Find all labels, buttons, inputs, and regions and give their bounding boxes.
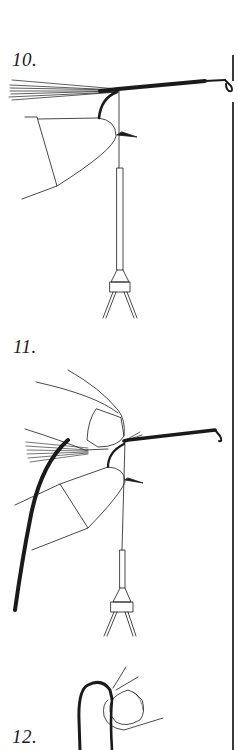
hook-bend-icon: [108, 444, 124, 467]
figure-12: [79, 667, 163, 750]
thread-line: [122, 441, 125, 550]
hook-shank-icon: [124, 430, 221, 441]
bobbin-icon: [103, 168, 137, 318]
fingertip-icon: [38, 118, 116, 186]
bobbin-icon: [104, 550, 136, 636]
hook-barb-icon: [125, 478, 143, 483]
hook-shank-icon: [100, 80, 232, 91]
figure-11: [15, 370, 221, 636]
illustration-artwork: [0, 0, 238, 750]
thumb-icon: [25, 370, 124, 450]
hook-barb-icon: [117, 132, 137, 137]
dark-thread-icon: [15, 440, 68, 610]
thread-loop-icon: [79, 682, 112, 750]
hook-bend-icon: [99, 92, 117, 118]
fingertip-icon: [60, 467, 125, 528]
figure-10: [9, 80, 232, 318]
illustration-page: 10. 11. 12.: [0, 0, 238, 750]
